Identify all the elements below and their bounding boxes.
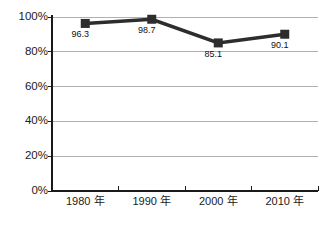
data-point-label: 90.1	[271, 40, 289, 50]
x-tick-label: 1980 年	[66, 195, 105, 208]
y-tick-label: 40%	[4, 114, 48, 127]
data-point-marker-2010年	[280, 30, 289, 39]
data-point-marker-2000年	[214, 38, 223, 47]
x-tick-label: 2000 年	[199, 195, 238, 208]
data-point-label: 98.7	[138, 25, 156, 35]
y-tick-label: 60%	[4, 80, 48, 93]
data-point-marker-1990年	[147, 15, 156, 24]
x-tick-label: 2010 年	[265, 195, 304, 208]
plot-area	[0, 0, 330, 225]
y-tick-label: 100%	[4, 10, 48, 23]
data-point-label: 96.3	[71, 29, 89, 39]
line-chart: 100% 80% 60% 40% 20% 0% 1980 年 1990 年 20…	[0, 0, 330, 225]
y-tick-label: 0%	[4, 184, 48, 197]
data-point-marker-1980年	[81, 19, 90, 28]
series-line	[85, 19, 285, 43]
y-tick-label: 20%	[4, 149, 48, 162]
x-tick-label: 1990 年	[132, 195, 171, 208]
data-point-label: 85.1	[204, 49, 222, 59]
y-tick-label: 80%	[4, 45, 48, 58]
